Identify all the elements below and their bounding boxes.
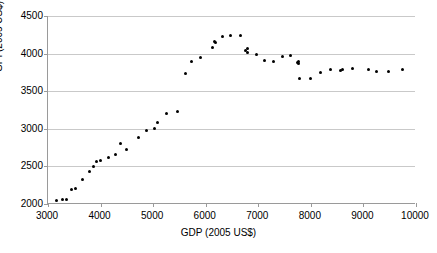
x-tick-label: 9000 [332, 211, 392, 221]
x-tick-label: 6000 [175, 211, 235, 221]
gridline-y [48, 91, 415, 92]
x-tick-mark [153, 203, 154, 207]
data-point [246, 51, 249, 54]
x-tick-label: 7000 [227, 211, 287, 221]
x-axis-title: GDP (2005 US$) [0, 228, 437, 238]
y-tick-mark [44, 91, 48, 92]
data-point [114, 153, 117, 156]
data-point [239, 34, 242, 37]
y-tick-mark [44, 54, 48, 55]
gridline-y [48, 129, 415, 130]
x-tick-mark [416, 203, 417, 207]
data-point [255, 53, 258, 56]
x-tick-label: 3000 [17, 211, 77, 221]
x-tick-mark [206, 203, 207, 207]
data-point [70, 188, 73, 191]
x-tick-mark [101, 203, 102, 207]
data-point [272, 60, 275, 63]
x-tick-label: 8000 [280, 211, 340, 221]
y-tick-mark [44, 129, 48, 130]
gridline-y [48, 166, 415, 167]
data-point [211, 46, 214, 49]
data-point [92, 165, 95, 168]
data-point [263, 59, 266, 62]
y-tick-label: 4000 [1, 49, 43, 59]
x-tick-mark [48, 203, 49, 207]
data-point [367, 68, 370, 71]
data-point [246, 47, 249, 50]
x-tick-label: 4000 [70, 211, 130, 221]
y-tick-mark [44, 16, 48, 17]
x-tick-mark [258, 203, 259, 207]
data-point [153, 127, 156, 130]
data-point [119, 142, 122, 145]
y-tick-label: 2000 [1, 199, 43, 209]
data-point [190, 60, 193, 63]
data-point [401, 68, 404, 71]
y-tick-mark [44, 166, 48, 167]
data-point [61, 198, 64, 201]
data-point [95, 160, 98, 163]
data-point [176, 110, 179, 113]
y-axis-title: GPI (2005 US$) [0, 1, 4, 72]
data-point [65, 198, 68, 201]
data-point [289, 54, 292, 57]
scatter-chart: 200025003000350040004500 300040005000600… [0, 0, 437, 253]
data-point [184, 72, 187, 75]
y-tick-label: 4500 [1, 11, 43, 21]
data-point [214, 41, 217, 44]
x-tick-label: 10000 [385, 211, 437, 221]
data-point [221, 35, 224, 38]
x-tick-mark [311, 203, 312, 207]
data-point [297, 62, 300, 65]
data-point [281, 55, 284, 58]
gridline-y [48, 16, 415, 17]
data-point [229, 34, 232, 37]
clipped-chart-title [120, 0, 320, 2]
y-tick-label: 3000 [1, 124, 43, 134]
data-point [351, 67, 354, 70]
data-point [319, 71, 322, 74]
data-point [107, 156, 110, 159]
data-point [165, 112, 168, 115]
y-tick-label: 2500 [1, 161, 43, 171]
data-point [309, 77, 312, 80]
gridline-y [48, 54, 415, 55]
y-tick-label: 3500 [1, 86, 43, 96]
data-point [81, 178, 84, 181]
data-point [375, 70, 378, 73]
plot-area [47, 16, 415, 204]
data-point [125, 148, 128, 151]
data-point [74, 187, 77, 190]
data-point [298, 77, 301, 80]
data-point [156, 121, 159, 124]
data-point [55, 199, 58, 202]
data-point [199, 56, 202, 59]
data-point [387, 70, 390, 73]
x-tick-label: 5000 [122, 211, 182, 221]
data-point [88, 170, 91, 173]
data-point [329, 68, 332, 71]
data-point [145, 129, 148, 132]
data-point [137, 136, 140, 139]
data-point [99, 159, 102, 162]
x-tick-mark [363, 203, 364, 207]
data-point [341, 68, 344, 71]
